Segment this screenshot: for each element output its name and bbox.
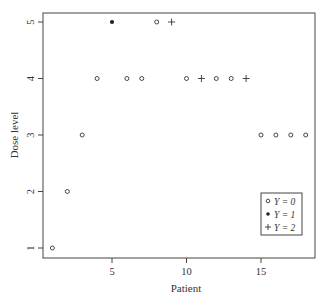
y-axis-ticks: 12345 xyxy=(25,19,43,250)
legend-label-y1: Y = 1 xyxy=(274,210,295,220)
scatter-chart: 51015 12345 Patient Dose level Y = 0 Y =… xyxy=(0,0,328,301)
legend-label-y2: Y = 2 xyxy=(274,223,295,233)
x-tick-label: 10 xyxy=(181,266,192,277)
filled-circle-icon xyxy=(266,212,270,216)
open-circle-point xyxy=(80,133,84,137)
plus-point xyxy=(198,75,205,82)
x-tick-label: 15 xyxy=(256,266,267,277)
y-tick-label: 3 xyxy=(25,132,36,137)
y-axis-label: Dose level xyxy=(8,112,20,159)
open-circle-point xyxy=(304,133,308,137)
x-axis-label: Patient xyxy=(171,282,202,294)
open-circle-point xyxy=(140,77,144,81)
open-circle-point xyxy=(50,246,54,250)
open-circle-point xyxy=(289,133,293,137)
open-circle-point xyxy=(214,77,218,81)
legend-label-y0: Y = 0 xyxy=(274,197,295,207)
legend: Y = 0 Y = 1 Y = 2 xyxy=(261,193,302,235)
open-circle-point xyxy=(155,20,159,24)
y-tick-label: 1 xyxy=(25,245,36,250)
open-circle-point xyxy=(229,77,233,81)
open-circle-point xyxy=(185,77,189,81)
open-circle-point xyxy=(274,133,278,137)
y-tick-label: 2 xyxy=(25,189,36,194)
open-circle-point xyxy=(125,77,129,81)
x-tick-label: 5 xyxy=(109,266,114,277)
open-circle-point xyxy=(95,77,99,81)
y-tick-label: 5 xyxy=(25,19,36,24)
y-tick-label: 4 xyxy=(25,75,36,81)
open-circle-point xyxy=(259,133,263,137)
plus-point xyxy=(243,75,250,82)
plus-point xyxy=(168,19,175,26)
filled-circle-point xyxy=(110,20,114,24)
open-circle-point xyxy=(65,190,69,194)
x-axis-ticks: 51015 xyxy=(109,258,266,277)
